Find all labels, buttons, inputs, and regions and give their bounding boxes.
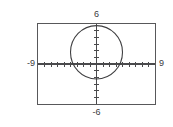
plot-canvas — [38, 24, 155, 104]
graph-widget: 6 -6 -9 9 — [0, 0, 173, 127]
plot-frame[interactable] — [37, 23, 156, 105]
y-max-label: 6 — [37, 9, 156, 19]
x-min-label: -9 — [13, 58, 35, 68]
y-min-label: -6 — [37, 107, 156, 117]
x-max-label: 9 — [159, 58, 173, 68]
